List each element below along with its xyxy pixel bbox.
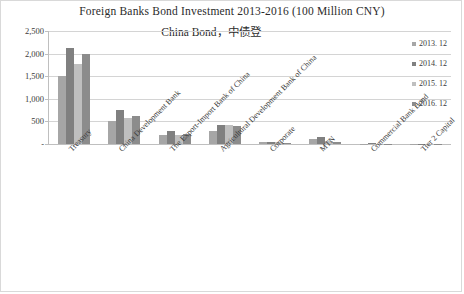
bar[interactable]	[108, 121, 116, 144]
gridline	[49, 144, 451, 145]
y-axis-tick-label: -	[4, 139, 44, 149]
legend-swatch-icon	[412, 62, 416, 66]
legend-label: 2014. 12	[419, 59, 447, 68]
bar[interactable]	[309, 139, 317, 144]
chart-legend: 2013. 122014. 122015. 122016. 12	[412, 39, 447, 108]
legend-item[interactable]: 2016. 12	[412, 99, 447, 108]
legend-item[interactable]: 2015. 12	[412, 79, 447, 88]
legend-label: 2013. 12	[419, 39, 447, 48]
y-axis-tick-mark	[45, 144, 49, 145]
bar[interactable]	[410, 144, 418, 145]
legend-swatch-icon	[412, 82, 416, 86]
legend-item[interactable]: 2014. 12	[412, 59, 447, 68]
y-axis-tick-label: 500	[4, 116, 44, 126]
bar[interactable]	[259, 142, 267, 144]
legend-item[interactable]: 2013. 12	[412, 39, 447, 48]
y-axis-tick-label: 2,500	[4, 26, 44, 36]
bar[interactable]	[209, 131, 217, 144]
bar[interactable]	[58, 76, 66, 144]
x-axis-labels: TreasuryChina Development BankThe Export…	[48, 147, 450, 247]
bar[interactable]	[159, 135, 167, 144]
legend-label: 2016. 12	[419, 99, 447, 108]
bar-group	[49, 31, 99, 144]
chart-title: Foreign Banks Bond Investment 2013-2016 …	[1, 5, 463, 17]
bar[interactable]	[66, 48, 74, 144]
bar-group	[300, 31, 350, 144]
bar[interactable]	[360, 144, 368, 145]
legend-swatch-icon	[412, 102, 416, 106]
legend-swatch-icon	[412, 42, 416, 46]
y-axis-tick-label: 2,000	[4, 49, 44, 59]
legend-label: 2015. 12	[419, 79, 447, 88]
chart-container: Foreign Banks Bond Investment 2013-2016 …	[0, 0, 462, 292]
y-axis-tick-label: 1,000	[4, 94, 44, 104]
y-axis-tick-label: 1,500	[4, 71, 44, 81]
